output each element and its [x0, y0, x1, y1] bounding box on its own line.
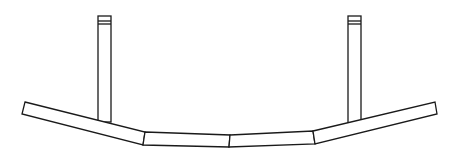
diagram-canvas: [0, 0, 459, 164]
left-end-segment: [22, 102, 145, 145]
center-right-segment: [229, 131, 315, 147]
bench-drawing: [0, 0, 459, 164]
right-end-segment: [313, 102, 437, 144]
left-post: [98, 16, 111, 122]
center-left-segment: [143, 132, 230, 147]
right-post: [348, 16, 361, 123]
